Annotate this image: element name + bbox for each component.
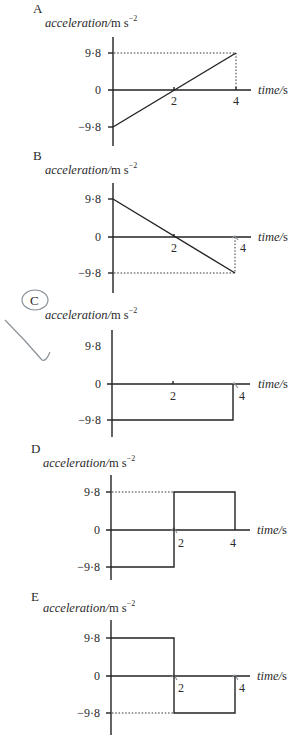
- xtick-2: 2: [170, 389, 176, 403]
- x-axis-label: time/s: [257, 669, 287, 683]
- ytick-pos: 9·8: [85, 339, 101, 353]
- xtick-4: 4: [233, 94, 239, 108]
- ytick-zero: 0: [94, 523, 100, 537]
- xtick-2: 2: [178, 681, 184, 695]
- xtick-4: 4: [239, 681, 245, 695]
- xtick-4: 4: [230, 536, 236, 550]
- ytick-neg: −9·8: [77, 706, 100, 720]
- options-figure: A acceleration/m s−2 9·8 0 −9·8 2 4 time…: [0, 0, 294, 735]
- ytick-pos: 9·8: [84, 631, 100, 645]
- x-axis-label: time/s: [257, 523, 287, 537]
- ytick-zero: 0: [94, 669, 100, 683]
- y-axis-label: acceleration/m s−2: [43, 599, 135, 615]
- ytick-neg: −9·8: [78, 266, 101, 280]
- xtick-2: 2: [171, 94, 177, 108]
- ytick-pos: 9·8: [85, 192, 101, 206]
- ytick-neg: −9·8: [78, 413, 101, 427]
- chart-e: E acceleration/m s−2 9·8 0 −9·8 2 4 time…: [31, 589, 287, 735]
- ytick-zero: 0: [95, 230, 101, 244]
- ytick-pos: 9·8: [84, 485, 100, 499]
- chart-d: D acceleration/m s−2 9·8 0 −9·8 2 4 time…: [31, 441, 287, 580]
- y-axis-label: acceleration/m s−2: [45, 306, 137, 322]
- ytick-neg: −9·8: [78, 120, 101, 134]
- data-line: [113, 199, 235, 273]
- y-axis-label: acceleration/m s−2: [45, 14, 137, 30]
- option-label-e: E: [31, 589, 39, 604]
- xtick-2: 2: [178, 536, 184, 550]
- x-axis-label: time/s: [258, 377, 288, 391]
- option-label-b: B: [33, 148, 42, 163]
- chart-a: A acceleration/m s−2 9·8 0 −9·8 2 4 time…: [33, 1, 288, 146]
- ytick-neg: −9·8: [77, 560, 100, 574]
- chart-c: C acceleration/m s−2 9·8 0 −9·8 2 4 time…: [5, 290, 288, 437]
- xtick-4: 4: [240, 241, 246, 255]
- y-axis-label: acceleration/m s−2: [43, 454, 135, 470]
- x-axis-label: time/s: [258, 230, 288, 244]
- ytick-pos: 9·8: [85, 46, 101, 60]
- xtick-2: 2: [171, 241, 177, 255]
- option-label-d: D: [31, 441, 40, 456]
- xtick-4: 4: [239, 389, 245, 403]
- option-label-a: A: [33, 1, 43, 16]
- y-axis-label: acceleration/m s−2: [45, 161, 137, 177]
- chart-b: B acceleration/m s−2 9·8 0 −9·8 2 4 time…: [33, 148, 288, 293]
- pencil-checkmark: [5, 320, 50, 360]
- option-label-c: C: [30, 293, 39, 308]
- ytick-zero: 0: [95, 377, 101, 391]
- ytick-zero: 0: [95, 83, 101, 97]
- x-axis-label: time/s: [258, 83, 288, 97]
